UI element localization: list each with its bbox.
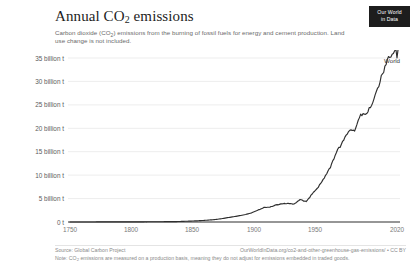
footer-source: Source: Global Carbon Project: [55, 247, 125, 254]
chart-title-subscript: 2: [125, 14, 130, 25]
ytick-label-35: 35 billion t: [35, 55, 64, 62]
ytick-label-15: 15 billion t: [35, 148, 64, 155]
x-axis-tick-labels: 1750 1800 1850 1900 1950 2020: [63, 226, 405, 233]
plot-area: 35 billion t 30 billion t 25 billion t 2…: [0, 50, 416, 235]
chart-subtitle: Carbon dioxide (CO2) emissions from the …: [55, 29, 355, 45]
our-world-in-data-logo[interactable]: Our World in Data: [369, 6, 410, 27]
xtick-label-2020: 2020: [390, 226, 405, 233]
xtick-label-1850: 1850: [185, 226, 200, 233]
footer-note-part1: Note: CO: [55, 255, 77, 261]
xtick-label-1900: 1900: [247, 226, 262, 233]
footer-note-part2: emissions are measured on a production b…: [79, 255, 350, 261]
logo-line-2: in Data: [369, 16, 410, 23]
xtick-label-1800: 1800: [124, 226, 139, 233]
footer-link[interactable]: OurWorldInData.org/co2-and-other-greenho…: [240, 247, 406, 254]
ytick-label-25: 25 billion t: [35, 101, 64, 108]
chart-card: Annual CO2 emissions Carbon dioxide (CO2…: [0, 0, 416, 268]
ytick-label-30: 30 billion t: [35, 78, 64, 85]
series-line-world: [70, 50, 398, 222]
series-label-world: World: [384, 57, 401, 64]
logo-line-1: Our World: [377, 9, 401, 15]
chart-footer: Source: Global Carbon Project OurWorldIn…: [55, 247, 406, 263]
y-axis-tick-labels: 35 billion t 30 billion t 25 billion t 2…: [35, 55, 64, 226]
xtick-label-1750: 1750: [63, 226, 78, 233]
ytick-label-0: 0 t: [57, 219, 64, 226]
ytick-label-20: 20 billion t: [35, 125, 64, 132]
ytick-label-5: 5 billion t: [39, 195, 64, 202]
line-chart-svg: 35 billion t 30 billion t 25 billion t 2…: [0, 50, 416, 235]
footer-note-subscript: 2: [77, 257, 79, 262]
footer-note: Note: CO2 emissions are measured on a pr…: [55, 255, 406, 263]
chart-header: Annual CO2 emissions Carbon dioxide (CO2…: [55, 8, 360, 45]
gridlines: [68, 58, 400, 199]
xtick-label-1950: 1950: [308, 226, 323, 233]
chart-title: Annual CO2 emissions: [55, 8, 360, 26]
ytick-label-10: 10 billion t: [35, 172, 64, 179]
chart-subtitle-part1: Carbon dioxide (CO: [55, 29, 111, 36]
chart-title-suffix: emissions: [130, 8, 194, 24]
chart-title-prefix: Annual CO: [55, 8, 125, 24]
